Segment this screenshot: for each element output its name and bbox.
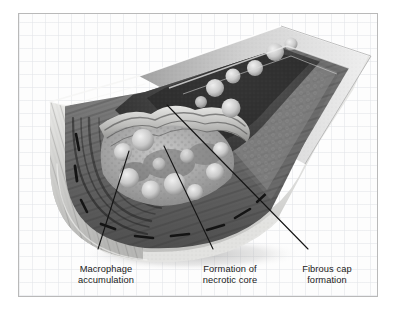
monocyte — [222, 99, 241, 118]
monocyte — [247, 60, 263, 76]
label-necrotic-line1: Formation of — [203, 264, 256, 274]
figure-plate: Macrophage accumulation Formation of nec… — [18, 13, 378, 297]
monocyte — [206, 79, 224, 97]
label-necrotic-line2: necrotic core — [171, 275, 289, 286]
label-macrophage-line1: Macrophage — [80, 264, 133, 274]
figure-root: Macrophage accumulation Formation of nec… — [0, 0, 397, 315]
label-macrophage-line2: accumulation — [51, 275, 161, 286]
label-macrophage-accumulation: Macrophage accumulation — [51, 264, 161, 287]
label-necrotic-core: Formation of necrotic core — [171, 264, 289, 287]
label-fibrous-line1: Fibrous cap — [302, 264, 352, 274]
artery-illustration — [19, 14, 378, 297]
monocyte — [195, 96, 207, 108]
label-fibrous-line2: formation — [275, 275, 378, 286]
label-fibrous-cap: Fibrous cap formation — [275, 264, 378, 287]
